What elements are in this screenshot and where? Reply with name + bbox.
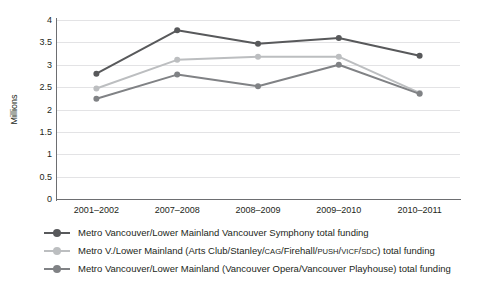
data-point (93, 96, 99, 102)
y-axis-title: Millions (10, 80, 19, 140)
legend-label: Metro Vancouver/Lower Mainland Vancouver… (78, 224, 369, 242)
y-tick-label: 0.5 (6, 173, 52, 182)
data-point (417, 91, 423, 97)
data-point (336, 62, 342, 68)
y-tick-label: 3 (6, 61, 52, 70)
series-2 (93, 54, 422, 96)
y-tick-label: 3.5 (6, 38, 52, 47)
y-tick-label: 1 (6, 150, 52, 159)
data-point (336, 35, 342, 41)
chart-legend: Metro Vancouver/Lower Mainland Vancouver… (44, 224, 484, 278)
data-point (255, 41, 261, 47)
legend-label: Metro Vancouver/Lower Mainland (Vancouve… (78, 260, 451, 278)
data-point (255, 83, 261, 89)
data-point (255, 54, 261, 60)
series-1 (93, 27, 422, 76)
x-axis-line (56, 199, 461, 200)
data-point (417, 53, 423, 59)
legend-item[interactable]: Metro Vancouver/Lower Mainland (Vancouve… (44, 260, 484, 278)
y-tick-label: 0 (6, 195, 52, 204)
data-point (336, 54, 342, 60)
data-point (174, 57, 180, 63)
series-3 (93, 62, 422, 102)
series-line (96, 65, 419, 99)
line-chart: 43.532.521.510.50 Millions 2001–20022007… (0, 0, 488, 292)
legend-marker-icon (44, 229, 70, 237)
x-tick-label: 2010–2011 (372, 205, 468, 215)
legend-marker-icon (44, 265, 70, 273)
data-point (174, 27, 180, 33)
legend-item[interactable]: Metro Vancouver/Lower Mainland Vancouver… (44, 224, 484, 242)
data-point (93, 71, 99, 77)
series-group (56, 20, 460, 199)
legend-marker-icon (44, 247, 70, 255)
data-point (93, 85, 99, 91)
legend-item[interactable]: Metro V./Lower Mainland (Arts Club/Stanl… (44, 242, 484, 260)
y-tick-label: 4 (6, 16, 52, 25)
data-point (174, 72, 180, 78)
legend-label: Metro V./Lower Mainland (Arts Club/Stanl… (78, 242, 435, 261)
series-line (96, 30, 419, 73)
